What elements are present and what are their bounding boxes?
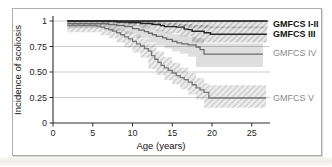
series-label-gmfcs-i-ii: GMFCS I-II: [273, 19, 319, 29]
y-axis-title: Incidence of scoliosis: [12, 25, 23, 115]
scoliosis-incidence-chart: 10.750.500.2500510152025 GMFCS I-IIGMFCS…: [0, 0, 332, 167]
x-tick-label: 5: [90, 128, 95, 138]
page-edge-shadow: [0, 157, 332, 167]
series-labels: GMFCS I-IIGMFCS IIIGMFCS IVGMFCS V: [273, 19, 319, 102]
y-tick-label: 0.25: [29, 93, 47, 103]
x-tick-label: 20: [207, 128, 217, 138]
y-tick-label: 1: [42, 16, 47, 26]
series-label-gmfcs-v: GMFCS V: [273, 93, 314, 103]
x-tick-label: 0: [50, 128, 55, 138]
x-axis-title: Age (years): [136, 140, 185, 151]
x-tick-label: 25: [247, 128, 257, 138]
series-label-gmfcs-iv: GMFCS IV: [273, 48, 317, 58]
x-tick-label: 10: [127, 128, 137, 138]
y-tick-label: 0.50: [29, 67, 47, 77]
x-tick-label: 15: [167, 128, 177, 138]
figure: 10.750.500.2500510152025 GMFCS I-IIGMFCS…: [0, 0, 332, 167]
y-tick-label: 0: [42, 118, 47, 128]
series-label-gmfcs-iii: GMFCS III: [273, 29, 316, 39]
y-tick-label: 0.75: [29, 42, 47, 52]
